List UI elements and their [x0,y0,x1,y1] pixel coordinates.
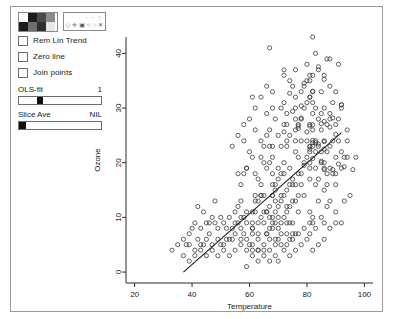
data-point [336,62,340,66]
data-point [230,144,234,148]
symbol-bottom-1-icon[interactable]: ✛ [72,22,77,28]
x-tick-label: 100 [358,290,372,299]
data-point [256,259,260,263]
data-point [268,46,272,50]
symbol-top-1-icon[interactable]: · [73,15,74,21]
data-point [242,122,246,126]
checkbox-1[interactable] [18,52,28,62]
data-point [265,133,269,137]
data-point [245,265,249,269]
slider-track-0[interactable] [18,96,102,105]
data-point [199,243,203,247]
data-point [325,122,329,126]
data-point [262,193,266,197]
slider-block-0: OLS-fit1 [18,85,106,105]
data-point [308,177,312,181]
data-point [222,248,226,252]
x-tick-label: 80 [302,290,311,299]
symbol-bottom-4-icon[interactable]: ◌ [92,22,96,28]
data-point [288,79,292,83]
data-point [256,248,260,252]
data-point [299,183,303,187]
symbol-top-3-icon[interactable]: + [85,15,87,21]
color-swatch-3[interactable] [46,13,55,22]
data-point [247,150,251,154]
color-swatch-5[interactable] [28,22,37,31]
checkbox-row-1[interactable]: Zero line [18,49,106,64]
data-point [242,139,246,143]
data-point [268,226,272,230]
data-point [250,254,254,258]
data-point [268,215,272,219]
symbol-bottom-0-icon[interactable]: ◇ [66,22,71,28]
data-point [227,254,231,258]
data-point [239,183,243,187]
color-swatch-1[interactable] [28,13,37,22]
color-palette[interactable] [18,12,58,32]
data-point [222,243,226,247]
data-point [199,248,203,252]
data-point [204,237,208,241]
checkbox-row-0[interactable]: Rem Lin Trend [18,33,106,48]
color-swatch-2[interactable] [37,13,46,22]
color-swatch-0[interactable] [19,13,28,22]
data-point [265,166,269,170]
data-point [282,130,286,134]
data-point [314,51,318,55]
data-point [311,73,315,77]
symbol-bottom-3-icon[interactable]: ○ [87,22,91,28]
data-point [210,248,214,252]
data-point [265,232,269,236]
slider-block-1: Slice AveNIL [18,110,106,130]
data-point [222,221,226,225]
symbol-top-0-icon[interactable]: · [67,15,68,21]
data-point [279,243,283,247]
data-point [270,183,274,187]
y-axis-title: Ozone [93,148,102,172]
data-point [204,221,208,225]
data-point [299,139,303,143]
data-point [273,243,277,247]
data-point [279,232,283,236]
slider-track-1[interactable] [18,121,102,130]
symbol-palette-row-bottom[interactable]: ◇✛▣○◌✕ [65,22,104,30]
data-point [273,199,277,203]
color-swatch-7[interactable] [46,22,55,31]
checkbox-2[interactable] [18,68,28,78]
data-point [256,237,260,241]
symbol-top-4-icon[interactable]: • [92,15,93,21]
data-point [250,232,254,236]
data-point [253,106,257,110]
data-point [299,243,303,247]
data-point [322,73,326,77]
data-point [276,259,280,263]
checkbox-row-2[interactable]: Join points [18,65,106,80]
data-point [250,221,254,225]
symbol-bottom-5-icon[interactable]: ✕ [98,22,103,28]
color-swatch-6[interactable] [37,22,46,31]
data-point [245,166,249,170]
data-point [187,243,191,247]
symbol-palette-row-top[interactable]: ···+•◻ [65,14,104,22]
symbol-palette[interactable]: ···+•◻ ◇✛▣○◌✕ [63,12,106,31]
slider-thumb-0[interactable] [37,97,43,104]
data-point [210,215,214,219]
data-point [305,101,309,105]
data-point [270,155,274,159]
color-swatch-4[interactable] [19,22,28,31]
data-point [291,237,295,241]
data-point [196,204,200,208]
symbol-top-5-icon[interactable]: ◻ [98,15,101,21]
data-point [253,199,257,203]
symbol-bottom-2-icon[interactable]: ▣ [79,22,85,28]
data-point [319,111,323,115]
data-point [296,232,300,236]
checkbox-0[interactable] [18,36,28,46]
data-point [216,226,220,230]
slider-thumb-1[interactable] [19,122,26,129]
data-point [181,254,185,258]
data-point [288,166,292,170]
data-point [196,237,200,241]
data-point [285,139,289,143]
symbol-top-2-icon[interactable]: · [79,15,80,21]
